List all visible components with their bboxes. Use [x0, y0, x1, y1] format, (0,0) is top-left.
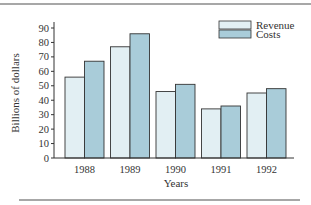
y-axis-title: Billions of dollars — [9, 53, 21, 132]
legend-swatch-costs — [219, 30, 251, 38]
x-tick-label: 1990 — [165, 164, 186, 175]
y-tick-label: 30 — [39, 109, 50, 120]
bar-revenue-1992 — [247, 93, 267, 158]
y-tick-label: 60 — [39, 66, 50, 77]
bar-costs-1990 — [176, 84, 196, 158]
bar-revenue-1990 — [156, 92, 176, 158]
x-tick-label: 1988 — [74, 164, 95, 175]
y-tick-label: 70 — [39, 51, 50, 62]
bar-costs-1988 — [85, 61, 105, 158]
bar-chart: 0102030405060708090 19881989199019911992… — [0, 0, 311, 205]
x-axis-title: Years — [164, 177, 189, 189]
legend-swatch-revenue — [219, 21, 251, 29]
legend-label-costs: Costs — [256, 28, 280, 40]
x-axis: 19881989199019911992 — [54, 158, 294, 175]
x-tick-label: 1989 — [120, 164, 141, 175]
bar-costs-1992 — [267, 89, 287, 158]
x-tick-label: 1991 — [211, 164, 232, 175]
bar-revenue-1988 — [65, 77, 85, 158]
x-tick-label: 1992 — [256, 164, 277, 175]
bars-group — [65, 34, 286, 158]
y-tick-label: 40 — [39, 95, 50, 106]
y-tick-label: 50 — [39, 80, 50, 91]
y-tick-label: 20 — [39, 124, 50, 135]
y-tick-label: 80 — [39, 37, 50, 48]
y-tick-label: 90 — [39, 23, 50, 34]
y-axis: 0102030405060708090 — [39, 22, 55, 164]
y-tick-label: 0 — [44, 153, 49, 164]
bar-revenue-1991 — [202, 109, 222, 158]
legend: Revenue Costs — [219, 19, 295, 40]
bar-costs-1989 — [130, 34, 150, 158]
bar-costs-1991 — [221, 106, 241, 158]
bar-revenue-1989 — [111, 47, 131, 158]
y-tick-label: 10 — [39, 138, 50, 149]
